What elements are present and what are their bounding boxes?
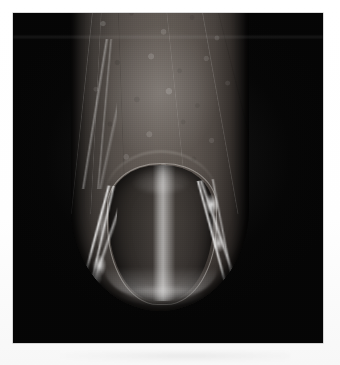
photograph-frame <box>13 13 323 343</box>
finger-shaft <box>71 13 249 311</box>
nail-plate <box>109 165 213 301</box>
left-shaft-glint <box>81 39 117 189</box>
page-smudge <box>60 350 290 362</box>
page-canvas: Grayscale macro photograph of a human fi… <box>0 0 340 365</box>
page-caption <box>0 0 1 1</box>
photo-description: Grayscale macro photograph of a human fi… <box>0 0 1 1</box>
nail-plate-shading <box>109 165 213 301</box>
